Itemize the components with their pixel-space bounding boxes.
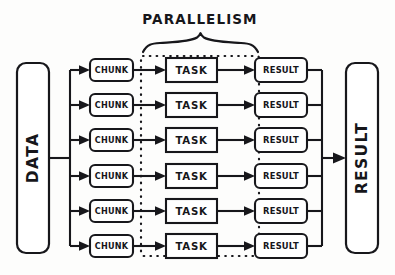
data-distributor-bus — [49, 70, 70, 246]
arrow-task-to-result-icon — [244, 65, 255, 75]
chunk-label: CHUNK — [95, 206, 129, 216]
result-label: RESULT — [263, 65, 299, 75]
arrow-data-to-chunk-icon — [79, 241, 90, 251]
task-label: TASK — [175, 241, 207, 252]
arrow-chunk-to-task-icon — [155, 135, 166, 145]
arrow-task-to-result-icon — [244, 171, 255, 181]
parallelism-diagram: PARALLELISM DATA RESULT — [0, 0, 395, 275]
task-label: TASK — [175, 206, 207, 217]
chunk-label: CHUNK — [95, 135, 129, 145]
chunk-label: CHUNK — [95, 100, 129, 110]
task-label: TASK — [175, 171, 207, 182]
arrow-chunk-to-task-icon — [155, 100, 166, 110]
arrow-data-to-chunk-icon — [79, 100, 90, 110]
arrow-task-to-result-icon — [244, 241, 255, 251]
pipeline-row: CHUNK TASK RESULT — [70, 93, 322, 117]
parallelism-brace — [143, 33, 258, 52]
collector-arrow-icon — [333, 152, 346, 163]
pipeline-row: CHUNK TASK RESULT — [70, 199, 322, 223]
result-label: RESULT — [263, 206, 299, 216]
final-result-block: RESULT — [346, 63, 378, 253]
arrow-chunk-to-task-icon — [155, 171, 166, 181]
arrow-chunk-to-task-icon — [155, 241, 166, 251]
parallelism-region-outline — [141, 56, 259, 256]
pipeline-row: CHUNK TASK RESULT — [70, 164, 322, 188]
arrow-data-to-chunk-icon — [79, 171, 90, 181]
arrow-data-to-chunk-icon — [79, 65, 90, 75]
arrow-chunk-to-task-icon — [155, 206, 166, 216]
chunk-label: CHUNK — [95, 171, 129, 181]
task-label: TASK — [175, 135, 207, 146]
task-label: TASK — [175, 100, 207, 111]
arrow-task-to-result-icon — [244, 100, 255, 110]
chunk-label: CHUNK — [95, 65, 129, 75]
arrow-chunk-to-task-icon — [155, 65, 166, 75]
arrow-data-to-chunk-icon — [79, 206, 90, 216]
result-collector-bus — [322, 70, 346, 246]
data-block: DATA — [17, 63, 49, 253]
result-label: RESULT — [263, 241, 299, 251]
arrow-task-to-result-icon — [244, 206, 255, 216]
result-label: RESULT — [263, 135, 299, 145]
task-label: TASK — [175, 65, 207, 76]
diagram-title: PARALLELISM — [142, 11, 257, 27]
result-label: RESULT — [263, 100, 299, 110]
final-result-block-label: RESULT — [353, 122, 371, 195]
chunk-label: CHUNK — [95, 241, 129, 251]
result-label: RESULT — [263, 171, 299, 181]
pipeline-row: CHUNK TASK RESULT — [70, 234, 322, 258]
pipeline-row: CHUNK TASK RESULT — [70, 58, 322, 82]
arrow-task-to-result-icon — [244, 135, 255, 145]
arrow-data-to-chunk-icon — [79, 135, 90, 145]
pipeline-row: CHUNK TASK RESULT — [70, 128, 322, 152]
diagram-canvas: PARALLELISM DATA RESULT — [0, 0, 395, 275]
data-block-label: DATA — [24, 133, 42, 184]
